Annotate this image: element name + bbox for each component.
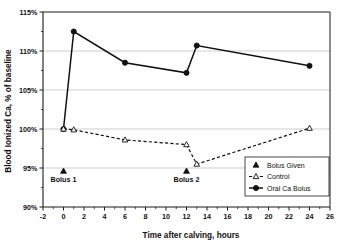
- x-tick-label: 8: [144, 212, 148, 221]
- x-tick-label: 6: [123, 212, 127, 221]
- legend-label: Control: [267, 173, 290, 180]
- chart-container: Bolus 1Bolus 2 90%95%100%105%110%115%-20…: [0, 0, 340, 243]
- x-tick-label: 10: [162, 212, 170, 221]
- series-oral-ca-bolus: [61, 29, 312, 132]
- legend-marker: [253, 185, 258, 190]
- x-axis-title: Time after calving, hours: [143, 231, 240, 240]
- data-point: [61, 168, 67, 173]
- x-tick-label: 16: [224, 212, 232, 221]
- y-tick-label: 110%: [20, 47, 39, 56]
- x-tick-label: 26: [326, 212, 334, 221]
- annotation-label: Bolus 2: [174, 175, 200, 184]
- data-point: [184, 142, 190, 147]
- series-line: [64, 32, 310, 130]
- data-point: [184, 168, 190, 173]
- y-tick-label: 115%: [20, 8, 39, 17]
- series-bolus-given: [61, 168, 190, 173]
- line-chart: Bolus 1Bolus 2 90%95%100%105%110%115%-20…: [0, 0, 340, 243]
- x-tick-label: 2: [82, 212, 86, 221]
- legend-label: Oral Ca Bolus: [267, 185, 311, 192]
- x-tick-label: 18: [244, 212, 252, 221]
- data-point: [71, 29, 76, 34]
- grid-lines: [43, 51, 330, 168]
- data-point: [307, 63, 312, 68]
- data-point: [184, 70, 189, 75]
- annotations-layer: Bolus 1Bolus 2: [51, 175, 200, 184]
- legend-item[interactable]: Control: [249, 173, 290, 180]
- x-tick-label: 4: [103, 212, 107, 221]
- data-point: [194, 43, 199, 48]
- data-point: [122, 60, 127, 65]
- x-tick-label: 22: [285, 212, 293, 221]
- x-tick-label: -2: [40, 212, 46, 221]
- y-tick-label: 100%: [19, 125, 38, 134]
- x-tick-label: 20: [265, 212, 273, 221]
- data-series-layer: [61, 29, 313, 173]
- data-point: [307, 125, 313, 130]
- x-tick-label: 24: [306, 212, 314, 221]
- y-axis-title: Blood Ionized Ca, % of baseline: [4, 49, 13, 173]
- y-tick-label: 95%: [23, 164, 38, 173]
- y-tick-label: 105%: [19, 86, 38, 95]
- y-tick-label: 90%: [23, 203, 38, 212]
- legend-label: Bolus Given: [267, 162, 305, 169]
- x-tick-label: 12: [183, 212, 191, 221]
- chart-legend: Bolus GivenControlOral Ca Bolus: [245, 157, 329, 196]
- x-tick-label: 14: [203, 212, 211, 221]
- annotation-label: Bolus 1: [51, 175, 77, 184]
- x-tick-label: 0: [62, 212, 66, 221]
